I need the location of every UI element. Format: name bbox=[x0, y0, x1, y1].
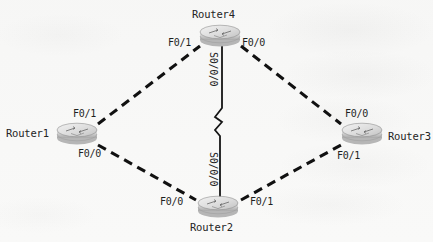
link-router1-router2 bbox=[98, 145, 196, 200]
router-icon bbox=[195, 195, 241, 219]
port-label-router2-f0-1: F0/1 bbox=[250, 196, 273, 207]
port-label-router2-f0-0: F0/0 bbox=[160, 196, 183, 207]
port-label-router4-f0-1: F0/1 bbox=[168, 37, 191, 48]
port-label-router4-s0-0-0: S0/0/0 bbox=[208, 52, 219, 86]
link-router1-router4 bbox=[98, 46, 200, 124]
port-label-router4-f0-0: F0/0 bbox=[242, 37, 265, 48]
node-label-router3: Router3 bbox=[388, 130, 431, 142]
port-label-router2-s0-0-0: S0/0/0 bbox=[208, 152, 219, 186]
router-icon bbox=[339, 122, 385, 146]
port-label-router1-f0-1: F0/1 bbox=[73, 108, 96, 119]
port-label-router3-f0-1: F0/1 bbox=[337, 150, 360, 161]
port-label-router3-f0-0: F0/0 bbox=[345, 108, 368, 119]
router-icon bbox=[54, 122, 100, 146]
network-diagram-canvas: Router4 Router1 Router3 bbox=[0, 0, 433, 242]
port-label-router1-f0-0: F0/0 bbox=[78, 148, 101, 159]
link-router2-router3 bbox=[241, 145, 341, 200]
link-router4-router3 bbox=[241, 46, 341, 124]
router-icon bbox=[197, 24, 243, 48]
node-label-router1: Router1 bbox=[6, 127, 49, 139]
node-label-router2: Router2 bbox=[190, 221, 233, 233]
node-label-router4: Router4 bbox=[192, 8, 235, 20]
